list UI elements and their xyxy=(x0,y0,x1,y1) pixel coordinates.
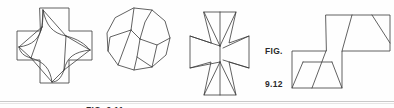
polygon-cut-8 xyxy=(118,30,131,65)
figure-rounded-polygon xyxy=(107,8,170,70)
zigzag-outline xyxy=(292,15,390,88)
caption-fig-9-11-text: FIG. 9.11 xyxy=(86,105,124,108)
maltese-cut-left-lower xyxy=(190,62,220,68)
star-curve-se xyxy=(64,50,90,70)
maltese-cut-bottom-right xyxy=(220,62,236,95)
scan-edge-line-secondary xyxy=(0,103,394,104)
star-chord-nw xyxy=(19,27,42,47)
scan-edge-line xyxy=(0,101,394,102)
figures-canvas xyxy=(0,0,394,108)
star-chord-se xyxy=(64,50,90,70)
polygon-cut-4 xyxy=(140,38,170,45)
star-curve-n1 xyxy=(42,10,43,27)
star-curve-w1 xyxy=(19,47,31,58)
zigzag-cut-3 xyxy=(312,51,326,88)
polygon-cut-5 xyxy=(108,30,131,51)
maltese-cut-top-right xyxy=(220,12,236,46)
star-inner-diag-2 xyxy=(31,27,42,58)
polygon-cut-2 xyxy=(140,10,152,39)
zigzag-cut-2 xyxy=(372,15,390,43)
star-chord-sw xyxy=(31,58,52,82)
figure-maltese-cross xyxy=(190,12,249,95)
maltese-cut-right-upper xyxy=(223,36,249,48)
star-chord-s xyxy=(52,70,64,82)
cross-outline xyxy=(17,8,92,83)
star-chord-w xyxy=(19,47,31,58)
star-chord-n xyxy=(42,10,43,27)
caption-fig-9-12-line1: FIG. xyxy=(265,46,283,57)
star-chord-ne xyxy=(43,10,66,36)
caption-fig-9-11: FIG. 9.11 xyxy=(86,83,124,108)
maltese-cut-top-left xyxy=(204,12,220,46)
maltese-cut-left-upper xyxy=(190,36,220,46)
star-curve-s1 xyxy=(52,70,64,82)
star-chord-e xyxy=(66,36,90,50)
polygon-cut-3 xyxy=(134,39,140,70)
figure-page: FIG. 9.11 FIG. 9.12 xyxy=(0,0,394,108)
star-curve-ne xyxy=(43,10,66,36)
star-curve-nw xyxy=(19,27,42,47)
caption-fig-9-12-line2: 9.12 xyxy=(265,79,283,90)
figure-zigzag-step-polygon xyxy=(292,15,390,88)
figure-greek-cross-star xyxy=(17,8,92,83)
polygon-outline xyxy=(107,8,170,70)
zigzag-cut-1 xyxy=(342,15,352,51)
star-curve-sw xyxy=(31,58,52,82)
maltese-cut-bottom-left xyxy=(204,62,220,95)
zigzag-cut-6 xyxy=(292,62,303,88)
zigzag-cut-4 xyxy=(332,62,342,88)
maltese-cut-right-lower xyxy=(223,60,249,68)
caption-fig-9-12: FIG. 9.12 xyxy=(265,24,283,108)
maltese-outline xyxy=(190,12,249,95)
star-inner-diag-1 xyxy=(64,36,66,70)
polygon-cut-1 xyxy=(131,8,140,39)
polygon-cut-6 xyxy=(137,57,152,67)
polygon-cut-7 xyxy=(152,45,157,67)
star-curve-e1 xyxy=(66,36,90,50)
